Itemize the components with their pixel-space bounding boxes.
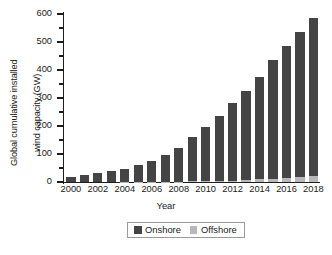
legend-label-onshore: Onshore (145, 225, 181, 235)
y-tick-label: 600 (26, 9, 52, 18)
bar-segment-onshore (201, 127, 210, 181)
bar-segment-onshore (241, 91, 250, 180)
bar-segment-onshore (255, 77, 264, 179)
bar-segment-onshore (161, 155, 170, 181)
bar-2018 (309, 18, 318, 182)
bar-segment-onshore (282, 46, 291, 178)
x-axis-tick-labels: 2000200220042006200820102012201420162018 (0, 184, 332, 198)
x-tick-label-2010: 2010 (191, 184, 221, 195)
bar-2005 (134, 165, 143, 182)
x-tick-label-2004: 2004 (110, 184, 140, 195)
bar-segment-onshore (215, 116, 224, 181)
bar-segment-onshore (174, 148, 183, 182)
bar-series-group (63, 14, 319, 182)
bar-segment-offshore (188, 181, 197, 182)
bar-segment-offshore (255, 179, 264, 182)
bar-2002 (93, 173, 102, 182)
bar-2004 (120, 169, 129, 182)
bar-segment-onshore (309, 18, 318, 175)
bar-segment-onshore (80, 175, 89, 182)
bar-2008 (174, 148, 183, 182)
y-axis-title-line-1: Global cumulative installed (9, 23, 21, 203)
legend-item-onshore: Onshore (134, 225, 181, 235)
bar-2015 (268, 60, 277, 182)
bar-2006 (147, 161, 156, 182)
bar-2013 (241, 91, 250, 182)
legend-swatch-onshore-icon (134, 226, 142, 234)
bar-segment-onshore (107, 171, 116, 182)
bar-segment-onshore (147, 161, 156, 182)
bar-2009 (188, 137, 197, 182)
bar-2003 (107, 171, 116, 182)
legend-item-offshore: Offshore (190, 225, 237, 235)
bar-segment-onshore (134, 165, 143, 182)
bar-segment-offshore (215, 181, 224, 182)
chart-figure: Global cumulative installed wind capacit… (0, 0, 332, 255)
y-tick-label: 100 (26, 149, 52, 158)
bar-segment-offshore (295, 177, 304, 182)
y-tick-label: 300 (26, 93, 52, 102)
bar-segment-onshore (188, 137, 197, 181)
x-tick-label-2006: 2006 (137, 184, 167, 195)
chart-legend: Onshore Offshore (127, 222, 245, 238)
y-tick-label: 500 (26, 37, 52, 46)
bar-2014 (255, 77, 264, 182)
x-tick-label-2018: 2018 (298, 184, 328, 195)
bar-2012 (228, 103, 237, 182)
bar-2016 (282, 46, 291, 182)
legend-swatch-offshore-icon (190, 226, 198, 234)
bar-segment-offshore (228, 181, 237, 182)
bar-segment-offshore (241, 180, 250, 182)
bar-segment-onshore (295, 32, 304, 177)
y-axis-title-line-2: wind capacity (GW) (32, 23, 44, 203)
bar-2011 (215, 116, 224, 182)
x-tick-label-2012: 2012 (218, 184, 248, 195)
bar-segment-onshore (93, 173, 102, 182)
x-tick-label-2008: 2008 (164, 184, 194, 195)
bar-segment-offshore (282, 178, 291, 182)
x-tick-label-2016: 2016 (272, 184, 302, 195)
bar-2017 (295, 32, 304, 182)
bar-segment-onshore (66, 177, 75, 182)
bar-segment-offshore (309, 176, 318, 182)
bar-2000 (66, 177, 75, 182)
x-axis-title: Year (0, 200, 332, 211)
legend-label-offshore: Offshore (201, 225, 237, 235)
bar-segment-onshore (228, 103, 237, 181)
x-tick-label-2014: 2014 (245, 184, 275, 195)
x-tick-label-2000: 2000 (56, 184, 86, 195)
y-tick-label: 400 (26, 65, 52, 74)
bar-segment-onshore (120, 169, 129, 182)
bar-2010 (201, 127, 210, 182)
bar-segment-offshore (268, 179, 277, 182)
bar-segment-offshore (201, 181, 210, 182)
y-tick-label: 200 (26, 121, 52, 130)
bar-2001 (80, 175, 89, 182)
x-tick-label-2002: 2002 (83, 184, 113, 195)
bar-segment-onshore (268, 60, 277, 179)
bar-2007 (161, 155, 170, 182)
